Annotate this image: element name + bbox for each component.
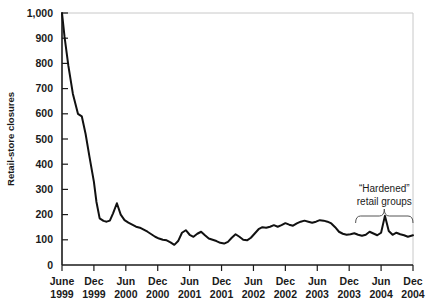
y-tick-label: 500 — [35, 133, 53, 145]
plot-frame — [62, 13, 413, 265]
y-axis-title: Retail-store closures — [5, 92, 16, 186]
x-tick-label-year: 2004 — [401, 288, 425, 300]
y-tick-label: 0 — [47, 259, 53, 271]
x-tick-label-month: Jun — [116, 275, 135, 287]
x-tick-label-year: 2000 — [114, 288, 138, 300]
data-series-line — [62, 13, 413, 245]
x-tick-label-month: Jun — [180, 275, 199, 287]
y-tick-label: 300 — [35, 183, 53, 195]
x-tick-label-year: 1999 — [82, 288, 106, 300]
x-tick-label-month: Jun — [372, 275, 391, 287]
x-tick-label-year: 2003 — [306, 288, 330, 300]
y-tick-label: 600 — [35, 107, 53, 119]
retail-store-closures-line-chart: 01002003004005006007008009001,000 June19… — [0, 0, 426, 308]
x-tick-label-year: 2003 — [338, 288, 362, 300]
annotation-line-1: “Hardened” — [359, 183, 410, 194]
y-tick-label: 800 — [35, 57, 53, 69]
x-tick-label-month: June — [50, 275, 75, 287]
chart-container: 01002003004005006007008009001,000 June19… — [0, 0, 426, 308]
x-tick-label-month: Dec — [84, 275, 103, 287]
x-tick-label-month: Dec — [212, 275, 231, 287]
y-tick-label: 1,000 — [27, 7, 53, 19]
y-tick-label: 100 — [35, 233, 53, 245]
x-tick-label-month: Dec — [276, 275, 295, 287]
x-tick-label-month: Dec — [403, 275, 422, 287]
y-axis: 01002003004005006007008009001,000 — [27, 7, 68, 271]
x-tick-label-month: Dec — [340, 275, 359, 287]
y-tick-label: 400 — [35, 158, 53, 170]
x-tick-label-year: 2000 — [146, 288, 170, 300]
x-tick-label-year: 2001 — [178, 288, 202, 300]
y-tick-label: 700 — [35, 82, 53, 94]
x-tick-label-year: 2004 — [369, 288, 393, 300]
x-axis: June1999Dec1999Jun2000Dec2000Jun2001Dec2… — [50, 265, 425, 300]
x-tick-label-year: 2002 — [274, 288, 298, 300]
x-tick-label-month: Jun — [308, 275, 327, 287]
x-tick-label-month: Jun — [244, 275, 263, 287]
x-tick-label-month: Dec — [148, 275, 167, 287]
x-tick-label-year: 1999 — [50, 288, 74, 300]
x-tick-label-year: 2002 — [242, 288, 266, 300]
x-tick-label-year: 2001 — [210, 288, 234, 300]
y-tick-label: 900 — [35, 32, 53, 44]
annotation-line-2: retail groups — [357, 196, 412, 207]
y-tick-label: 200 — [35, 208, 53, 220]
